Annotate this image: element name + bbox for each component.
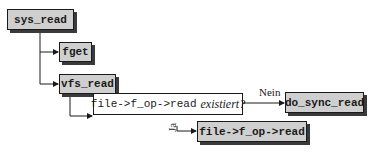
decision-code: file->f_op->read: [91, 98, 197, 110]
flow-diagram: sys_read fget vfs_read file->f_op->read …: [0, 0, 381, 153]
node-do-sync-read: do_sync_read: [285, 92, 364, 113]
node-sys-read-label: sys_read: [14, 14, 67, 26]
node-do-sync-read-label: do_sync_read: [285, 97, 364, 109]
node-f-op-read-label: file->f_op->read: [199, 126, 305, 138]
node-f-op-read: file->f_op->read: [197, 121, 307, 142]
node-decision: file->f_op->read existiert?: [93, 93, 243, 115]
node-vfs-read: vfs_read: [59, 74, 116, 94]
node-sys-read: sys_read: [7, 9, 74, 30]
node-fget: fget: [59, 42, 92, 62]
edge-label-no: Nein: [259, 86, 280, 98]
node-fget-label: fget: [62, 46, 88, 58]
decision-question: existiert?: [200, 97, 245, 112]
edge-label-yes: Ja: [166, 123, 178, 132]
node-vfs-read-label: vfs_read: [61, 78, 114, 90]
